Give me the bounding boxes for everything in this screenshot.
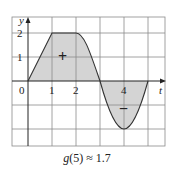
x-tick-label-1: 1 <box>49 84 55 96</box>
y-tick-label-2: 2 <box>17 27 23 39</box>
origin-label: 0 <box>19 84 25 96</box>
caption-value: 1.7 <box>96 151 111 165</box>
area-function-graph: y t 0 2 1 1 2 4 + − <box>0 0 174 175</box>
y-axis-label: y <box>18 14 24 26</box>
figure-caption: g(5) ≈ 1.7 <box>0 151 174 166</box>
caption-function-name: g <box>63 151 69 165</box>
y-axis-arrow-icon <box>26 17 31 23</box>
caption-argument: 5 <box>73 151 79 165</box>
x-tick-label-2: 2 <box>73 84 79 96</box>
x-tick-label-4: 4 <box>121 84 127 96</box>
negative-sign: − <box>119 100 128 117</box>
y-tick-label-1: 1 <box>17 51 23 63</box>
t-axis-label: t <box>159 84 163 96</box>
positive-sign: + <box>58 48 67 65</box>
caption-relation: ≈ <box>86 151 93 165</box>
